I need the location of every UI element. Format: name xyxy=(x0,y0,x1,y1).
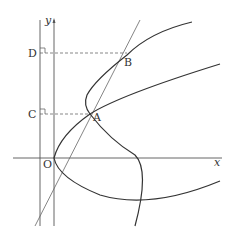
right-angle-mark-d xyxy=(40,48,45,53)
label-x: x xyxy=(214,156,221,169)
label-d: D xyxy=(28,47,37,60)
line-oab xyxy=(35,20,140,226)
label-a: A xyxy=(92,111,102,124)
label-c: C xyxy=(28,108,36,121)
coordinate-diagram: y x O A B C D xyxy=(0,0,241,241)
y-axis-arrow-icon xyxy=(53,18,56,23)
label-y: y xyxy=(44,14,52,27)
parabola-1 xyxy=(54,64,220,200)
right-angle-mark-c xyxy=(40,109,45,114)
label-origin: O xyxy=(43,158,52,171)
label-b: B xyxy=(124,56,132,69)
